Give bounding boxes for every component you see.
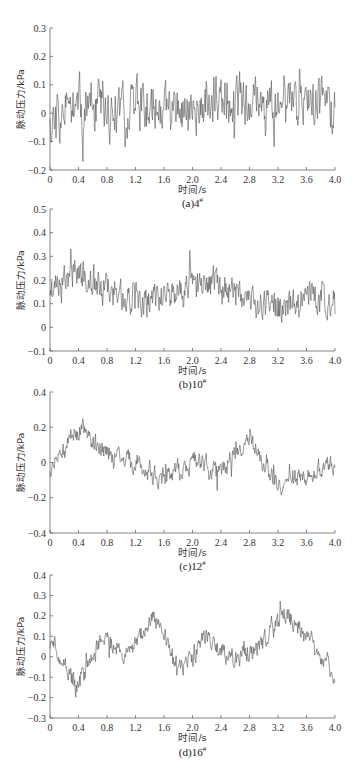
x-tick-label: 1.6 [158,722,171,733]
x-tick-label: 1.2 [129,722,142,733]
x-tick-label: 3.2 [272,722,285,733]
x-tick-label: 2.8 [243,722,256,733]
y-tick-label: 0.3 [34,251,47,262]
x-tick-label: 0 [48,174,53,185]
panel-caption: (d)16# [179,745,207,759]
x-tick-label: 1.2 [129,355,142,366]
x-tick-label: 0 [48,537,53,548]
x-axis-label: 时间/s [178,547,206,558]
x-tick-label: 1.6 [158,174,171,185]
y-tick-label: 0 [41,108,46,119]
y-tick-label: −0.4 [28,528,46,539]
x-tick-label: 4.0 [329,722,342,733]
x-tick-label: 1.6 [158,355,171,366]
y-tick-label: 0.4 [34,570,47,581]
y-tick-label: −0.1 [28,672,46,683]
x-tick-label: 0.8 [101,537,114,548]
x-tick-label: 3.2 [272,174,285,185]
x-axis-label: 时间/s [178,184,206,195]
y-tick-label: 0.1 [34,298,47,309]
panel-caption: (a)4# [182,196,204,210]
x-tick-label: 0.4 [72,722,85,733]
y-tick-label: 0 [41,322,46,333]
x-tick-label: 2.4 [215,355,228,366]
x-tick-label: 1.6 [158,537,171,548]
panel-caption: (b)10# [179,377,207,391]
x-tick-label: 0.8 [101,174,114,185]
x-tick-label: 0 [48,722,53,733]
x-tick-label: 2.8 [243,537,256,548]
x-tick-label: 4.0 [329,355,342,366]
y-tick-label: −0.3 [28,713,46,724]
x-tick-label: 0 [48,355,53,366]
pressure-series-line [50,601,335,697]
x-tick-label: 2.8 [243,355,256,366]
y-tick-label: 0 [41,651,46,662]
y-tick-label: −0.1 [28,346,46,357]
y-tick-label: 0.2 [34,610,47,621]
y-tick-label: −0.2 [28,165,46,176]
y-tick-label: 0.4 [34,227,47,238]
pressure-series-line [50,249,335,323]
y-tick-label: 0.1 [34,79,47,90]
y-axis-label: 脉动压力/kPa [15,617,26,677]
chart-panel-2: −0.100.10.20.30.40.500.40.81.21.62.02.42… [15,204,341,392]
x-axis-label: 时间/s [178,732,206,743]
x-tick-label: 3.6 [300,355,313,366]
pressure-series-line [50,419,335,495]
y-tick-label: −0.1 [28,136,46,147]
x-tick-label: 4.0 [329,174,342,185]
x-tick-label: 0.4 [72,355,85,366]
y-tick-label: 0.3 [34,23,47,34]
chart-panel-4: −0.3−0.2−0.100.10.20.30.400.40.81.21.62.… [15,570,341,760]
x-tick-label: 2.4 [215,174,228,185]
chart-panel-1: −0.2−0.100.10.20.300.40.81.21.62.02.42.8… [15,23,341,211]
y-tick-label: 0.1 [34,631,47,642]
y-axis-label: 脉动压力/kPa [15,250,26,310]
x-tick-label: 3.2 [272,355,285,366]
y-axis-label: 脉动压力/kPa [15,69,26,129]
y-tick-label: 0.2 [34,422,47,433]
x-tick-label: 0.4 [72,174,85,185]
x-tick-label: 3.2 [272,537,285,548]
x-tick-label: 2.4 [215,722,228,733]
x-tick-label: 1.2 [129,174,142,185]
panel-caption: (c)12# [179,559,206,573]
x-tick-label: 0.8 [101,355,114,366]
x-tick-label: 0.4 [72,537,85,548]
x-tick-label: 4.0 [329,537,342,548]
x-tick-label: 3.6 [300,174,313,185]
y-tick-label: −0.2 [28,492,46,503]
y-tick-label: 0.2 [34,275,47,286]
y-axis-label: 脉动压力/kPa [15,433,26,493]
y-tick-label: −0.2 [28,692,46,703]
x-tick-label: 1.2 [129,537,142,548]
x-axis-label: 时间/s [178,365,206,376]
x-tick-label: 3.6 [300,537,313,548]
x-tick-label: 0.8 [101,722,114,733]
chart-panel-3: −0.4−0.200.20.400.40.81.21.62.02.42.83.2… [15,387,341,574]
x-tick-label: 2.8 [243,174,256,185]
y-tick-label: 0 [41,457,46,468]
x-tick-label: 2.4 [215,537,228,548]
pressure-series-line [50,69,335,162]
y-tick-label: 0.4 [34,387,47,398]
x-tick-label: 3.6 [300,722,313,733]
y-tick-label: 0.3 [34,590,47,601]
y-tick-label: 0.5 [34,204,47,215]
y-tick-label: 0.2 [34,51,47,62]
pressure-fluctuation-figure: −0.2−0.100.10.20.300.40.81.21.62.02.42.8… [0,0,363,774]
